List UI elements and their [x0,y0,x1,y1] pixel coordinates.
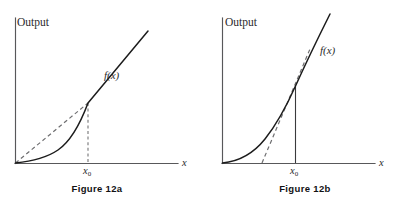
threshold-label-12b-sub: 0 [295,170,299,178]
figure-12b-plot [223,14,331,163]
y-axis-label-12b: Output [225,17,257,29]
function-label-12b: f(x) [320,45,335,56]
figure-12b-axes [222,18,375,164]
threshold-label-12b: x0 [290,166,298,178]
x-axis-label-12b: x [379,158,384,169]
figure-board: Output f(x) x0 x Figure 12a Output f(x) … [0,0,408,204]
figure-12b-graphic [0,0,408,204]
caption-figure-12b: Figure 12b [255,183,355,194]
function-curve-12b [223,14,331,163]
